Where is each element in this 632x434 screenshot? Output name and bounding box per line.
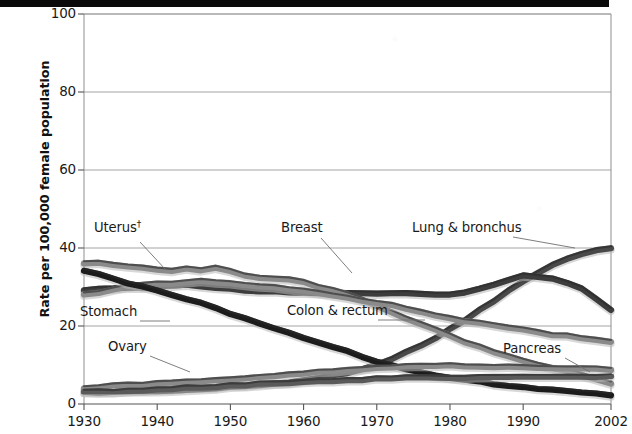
y-tick-label-0: 0	[36, 395, 76, 411]
x-tick-label-1940: 1940	[127, 413, 187, 429]
series-lines	[84, 246, 611, 397]
y-tick-label-40: 40	[36, 239, 76, 255]
y-axis-title: Rate per 100,000 female population	[37, 98, 52, 318]
x-tick-label-1950: 1950	[200, 413, 260, 429]
leader-ovary	[150, 356, 190, 372]
series-label-lung-bronchus: Lung & bronchus	[412, 220, 521, 235]
x-tick-label-1990: 1990	[493, 413, 553, 429]
y-tick-label-20: 20	[36, 317, 76, 333]
series-label-text: Uterus	[94, 220, 137, 235]
x-tick-label-1960: 1960	[274, 413, 334, 429]
x-tick-label-2002: 2002	[581, 413, 632, 429]
series-label-ovary: Ovary	[108, 339, 147, 354]
series-label-stomach: Stomach	[80, 304, 137, 319]
series-label-breast: Breast	[281, 220, 323, 235]
leader-breast	[321, 238, 352, 273]
x-tick-label-1980: 1980	[420, 413, 480, 429]
series-label-colon-rectum: Colon & rectum	[287, 303, 388, 318]
y-tick-label-100: 100	[36, 5, 76, 21]
x-tick-marks	[84, 404, 611, 410]
footnote-dagger-icon: †	[137, 219, 141, 229]
y-tick-label-60: 60	[36, 161, 76, 177]
y-tick-marks	[78, 14, 84, 404]
x-tick-label-1930: 1930	[54, 413, 114, 429]
leader-lung-bronchus	[513, 237, 575, 248]
series-label-pancreas: Pancreas	[503, 341, 561, 356]
series-label-uterus: Uterus†	[94, 219, 141, 235]
x-tick-label-1970: 1970	[347, 413, 407, 429]
y-tick-label-80: 80	[36, 83, 76, 99]
